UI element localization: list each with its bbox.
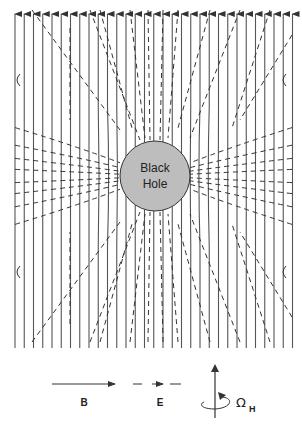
legend-label-omega: Ω bbox=[236, 395, 246, 410]
field-line-diagram: Black Hole B E Ω H bbox=[0, 0, 302, 424]
legend-label-e: E bbox=[157, 397, 164, 408]
legend-item-b: B bbox=[52, 384, 115, 408]
legend-label-omega-subscript: H bbox=[249, 404, 256, 414]
black-hole-label-line2: Hole bbox=[143, 177, 168, 191]
legend: B E Ω H bbox=[52, 364, 256, 418]
legend-item-omega: Ω H bbox=[202, 364, 256, 418]
legend-item-e: E bbox=[133, 384, 181, 408]
legend-label-b: B bbox=[80, 397, 87, 408]
black-hole-label-line1: Black bbox=[140, 161, 170, 175]
black-hole: Black Hole bbox=[120, 141, 190, 211]
